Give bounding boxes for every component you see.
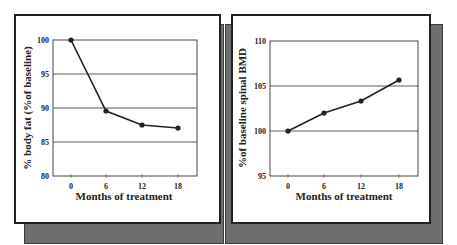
left-y-tick-labels: 100 95 90 85 80: [37, 36, 49, 181]
left-data-line: [71, 40, 178, 128]
right-chart: 110 105 100 95 0 6 12 18 Months of treat…: [236, 37, 418, 202]
right-gridlines: [270, 86, 418, 131]
right-plot-frame: [270, 41, 418, 176]
right-y-tick-labels: 110 105 100 95: [254, 37, 266, 181]
left-data-markers: [68, 37, 180, 130]
left-gridlines: [53, 74, 197, 142]
right-y-axis-title: %of baseline spinal BMD: [236, 48, 248, 168]
y-tick-100: 100: [37, 36, 49, 45]
y-tick-85: 85: [41, 138, 49, 147]
right-x-axis-title: Months of treatment: [296, 190, 393, 202]
y-tick-100: 100: [254, 127, 266, 136]
y-tick-95: 95: [258, 172, 266, 181]
y-tick-90: 90: [41, 104, 49, 113]
y-tick-105: 105: [254, 82, 266, 91]
left-x-axis-title: Months of treatment: [76, 190, 173, 202]
y-tick-80: 80: [41, 172, 49, 181]
left-chart: 100 95 90 85 80 0 6 12 18 Months of trea…: [21, 36, 197, 202]
x-tick-18: 18: [395, 182, 403, 191]
left-y-axis-title: % body fat (%of baseline): [21, 46, 34, 170]
x-tick-0: 0: [286, 182, 290, 191]
y-tick-95: 95: [41, 70, 49, 79]
right-data-line: [288, 80, 399, 131]
x-tick-18: 18: [174, 182, 182, 191]
x-tick-0: 0: [69, 182, 73, 191]
y-tick-110: 110: [254, 37, 266, 46]
charts-svg: 100 95 90 85 80 0 6 12 18 Months of trea…: [0, 0, 457, 245]
